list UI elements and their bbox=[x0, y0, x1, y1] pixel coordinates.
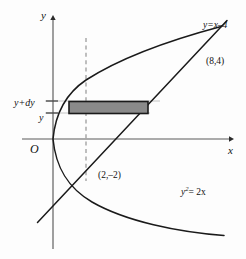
math-figure: y x O y+dy y y=x–4 (8,4) (2,–2) y2= 2x bbox=[0, 0, 246, 259]
point-label-2-minus-2: (2,–2) bbox=[98, 171, 121, 181]
shaded-strip-rect bbox=[69, 102, 148, 114]
tick-label-y-plus-dy: y+dy bbox=[14, 98, 35, 108]
parabola-curve bbox=[53, 26, 224, 235]
y-axis-label: y bbox=[41, 10, 46, 21]
origin-label: O bbox=[30, 143, 39, 155]
tick-label-y: y bbox=[39, 113, 43, 123]
point-label-8-4: (8,4) bbox=[206, 57, 224, 67]
parabola-equation-label: y2= 2x bbox=[181, 188, 206, 198]
line-equation-label: y=x–4 bbox=[203, 21, 227, 31]
parabola-eq-rest: = 2x bbox=[189, 187, 206, 197]
x-axis-label: x bbox=[228, 145, 233, 156]
plot-canvas bbox=[0, 0, 246, 259]
